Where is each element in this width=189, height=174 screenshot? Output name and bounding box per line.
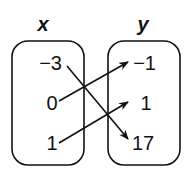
range-value-neg1: −1 xyxy=(133,52,156,74)
arrow-1-to-1 xyxy=(59,102,128,143)
domain-value-1: 1 xyxy=(46,132,57,154)
range-header: y xyxy=(136,13,149,35)
domain-header: x xyxy=(36,13,49,35)
range-value-17: 17 xyxy=(132,132,154,154)
domain-value-neg3: −3 xyxy=(39,52,62,74)
domain-value-0: 0 xyxy=(46,92,57,114)
arrow-neg3-to-17 xyxy=(67,66,128,139)
range-value-1: 1 xyxy=(140,92,151,114)
mapping-diagram: x y −3 0 1 −1 1 17 xyxy=(0,0,189,174)
